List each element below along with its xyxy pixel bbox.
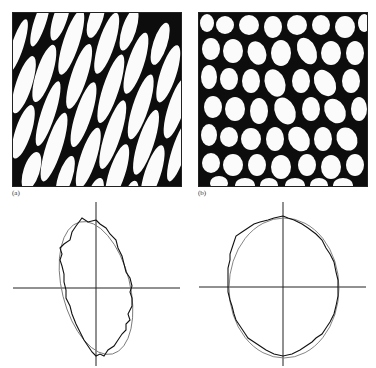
micrograph-b-image — [199, 13, 367, 186]
fitted-ellipse — [229, 218, 339, 358]
orientation-plot-b — [188, 196, 376, 368]
orientation-plot-a — [0, 196, 188, 368]
micrograph-a-image — [13, 13, 181, 186]
micrograph-a — [12, 12, 182, 187]
micrograph-b — [198, 12, 368, 187]
